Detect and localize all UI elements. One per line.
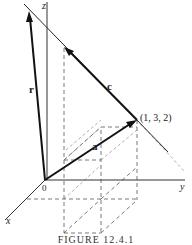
x-axis-label: x: [5, 215, 11, 226]
vector-a: [45, 120, 137, 180]
vector-line-diagram: z y x 0 (1, 3, 2) r a c FIGURE 12.4.1: [0, 0, 192, 245]
vector-r-label: r: [29, 83, 34, 95]
figure-caption: FIGURE 12.4.1: [0, 234, 192, 245]
box-diagonal: [101, 130, 137, 160]
box-edge: [64, 199, 101, 233]
box-edge: [101, 200, 137, 233]
vector-r: [26, 11, 45, 180]
point-label: (1, 3, 2): [140, 112, 172, 124]
y-axis-label: y: [179, 181, 185, 192]
origin-label: 0: [42, 183, 47, 193]
z-axis-label: z: [41, 0, 46, 11]
x-axis: [5, 180, 45, 220]
vector-c-label: c: [107, 80, 112, 92]
vector-a-label: a: [92, 140, 98, 152]
box-edge: [101, 167, 137, 199]
vector-c: [64, 47, 137, 120]
box-diagonal: [64, 165, 101, 199]
